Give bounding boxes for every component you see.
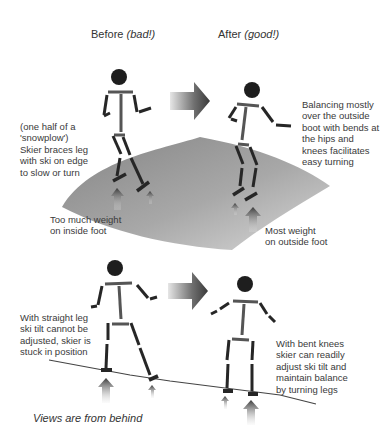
caption-bent-knees: With bent knees skier can readily adjust… [276, 338, 348, 395]
header-before: Before (bad!) [91, 28, 155, 40]
caption-balancing: Balancing mostly over the outside boot w… [302, 99, 379, 167]
pressure-arrow-small-after-bottom [221, 396, 229, 409]
skier-after-bottom [211, 276, 275, 394]
note-inside-foot: Too much weight on inside foot [50, 214, 121, 237]
header-after-label: After [218, 28, 241, 40]
transition-arrow-bottom [168, 272, 208, 310]
pressure-arrow-large-after-bottom [243, 400, 259, 425]
header-after: After (good!) [218, 28, 279, 40]
pressure-arrow-small-before-bottom [148, 385, 156, 398]
caption-snowplow: (one half of a 'snowplow') Skier braces … [20, 121, 88, 178]
header-before-note: (bad!) [126, 28, 155, 40]
transition-arrow-top [170, 82, 210, 120]
skier-before-bottom [91, 260, 158, 380]
header-after-note: (good!) [244, 28, 279, 40]
header-before-label: Before [91, 28, 123, 40]
footer-note: Views are from behind [33, 412, 142, 424]
caption-straight-leg: With straight leg ski tilt cannot be adj… [20, 312, 91, 358]
pressure-arrow-large-before-bottom [98, 378, 114, 403]
note-outside-foot: Most weight on outside foot [265, 225, 327, 248]
